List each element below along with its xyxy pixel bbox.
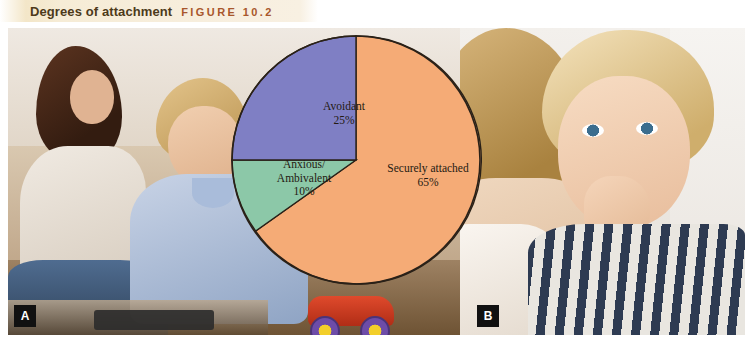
attachment-pie-chart: Avoidant 25% Anxious/ Ambivalent 10% Sec… [230,34,482,286]
panel-b-child-eye-right [636,122,658,135]
panel-b-child-eye-left [582,124,604,137]
panel-a-table-surface [94,310,214,330]
panel-a-mother-face [70,70,114,124]
figure-number: Figure 10.2 [181,6,273,18]
figure-body: Avoidant 25% Anxious/ Ambivalent 10% Sec… [8,28,745,335]
figure-title-bar: Degrees of attachment Figure 10.2 [0,0,753,22]
pie-chart-svg [230,34,482,286]
panel-label-b: B [477,305,499,327]
panel-b-photo [460,28,745,335]
figure-title: Degrees of attachment [30,4,172,19]
figure-title-group: Degrees of attachment Figure 10.2 [0,4,274,19]
panel-label-a: A [14,305,36,327]
panel-a-child-collar [192,178,234,208]
panel-b-child-shirt [528,224,745,335]
pie-slice-avoidant [232,36,356,160]
